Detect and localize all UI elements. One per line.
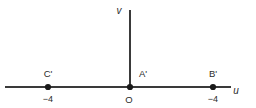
- tick-label-b-prime: −4: [208, 94, 218, 104]
- point-c-prime-dot: [45, 84, 51, 90]
- point-a-prime-label: A': [139, 68, 147, 79]
- figure-canvas: u v C' A' B' −4 −4 O: [0, 0, 256, 108]
- point-c-prime-label: C': [44, 68, 53, 79]
- point-b-prime-dot: [210, 84, 216, 90]
- point-b-prime-label: B': [209, 68, 217, 79]
- coordinate-figure: u v C' A' B' −4 −4 O: [0, 0, 256, 108]
- origin-label: O: [125, 94, 132, 105]
- point-a-prime-dot: [127, 84, 133, 90]
- tick-label-c-prime: −4: [43, 94, 53, 104]
- v-axis-label: v: [117, 5, 123, 16]
- u-axis-label: u: [233, 85, 239, 96]
